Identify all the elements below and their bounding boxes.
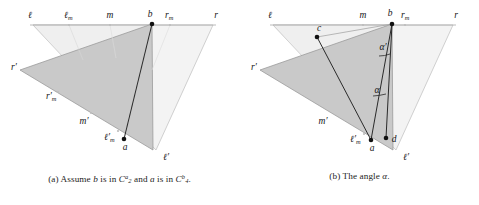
- figure-container: ℓ ℓm m b rm r r′ r′m m′ ℓ′m a ℓ′ (a) A: [0, 0, 479, 205]
- label-alpha-prime-b: α′: [379, 42, 387, 52]
- caption-b-text1: The angle: [343, 171, 380, 181]
- diagram-a: ℓ ℓm m b rm r r′ r′m m′ ℓ′m a ℓ′: [0, 0, 239, 168]
- tick-rm-a: [169, 24, 171, 26]
- label-l-a: ℓ: [28, 10, 32, 20]
- label-r-b: r: [454, 10, 458, 20]
- caption-a-math-a: a: [150, 174, 155, 184]
- label-b-b: b: [388, 8, 393, 18]
- point-c-b: [315, 35, 320, 40]
- tick-rm-prime-a: [57, 91, 59, 93]
- label-a-b: a: [370, 143, 375, 153]
- label-b-a: b: [148, 9, 153, 19]
- caption-b-prefix: (b): [329, 171, 340, 181]
- label-rm-b: rm: [401, 10, 410, 21]
- caption-a-text1: Assume: [61, 174, 91, 184]
- label-m-prime-a: m′: [80, 116, 90, 126]
- label-lm-prime-sub-b: m: [356, 138, 361, 145]
- label-rm-a: rm: [165, 10, 174, 21]
- tick-lm-a: [68, 24, 70, 26]
- caption-a-math-b: b: [93, 174, 98, 184]
- caption-a-text4: is in: [157, 174, 173, 184]
- caption-b: (b) The angle α.: [240, 170, 479, 183]
- caption-a-set1: Ca2: [119, 174, 132, 184]
- label-r-prime-a: r′: [11, 62, 18, 72]
- label-lm-prime-sub-a: m: [110, 136, 115, 143]
- diagram-b: ℓ m b rm r c α′ α r′ m′ ℓ′m a d ℓ′: [240, 0, 479, 168]
- tick-rm-b: [404, 24, 406, 26]
- tick-m-a: [109, 24, 111, 26]
- caption-a: (a) Assume b is in Ca2 and a is in Cb4.: [0, 170, 239, 187]
- point-a-a: [122, 137, 127, 142]
- caption-a-set2: Cb4: [176, 174, 189, 184]
- subfigure-b: ℓ m b rm r c α′ α r′ m′ ℓ′m a d ℓ′ (b) T…: [240, 0, 479, 205]
- caption-a-text2: is in: [100, 174, 116, 184]
- point-d-b: [384, 136, 389, 141]
- label-m-a: m: [107, 10, 114, 20]
- point-b-b: [390, 22, 395, 27]
- point-a-b: [369, 138, 374, 143]
- tick-m-prime-a: [90, 112, 92, 114]
- label-m-b: m: [360, 10, 367, 20]
- tick-m-b: [362, 24, 364, 26]
- label-lm-prime-b: ℓ′m: [350, 134, 361, 145]
- label-l-prime-a: ℓ′: [163, 152, 170, 162]
- label-l-prime-b: ℓ′: [403, 152, 410, 162]
- label-d-b: d: [392, 134, 397, 144]
- subfigure-a: ℓ ℓm m b rm r r′ r′m m′ ℓ′m a ℓ′ (a) A: [0, 0, 239, 205]
- label-lm-sub-a: m: [68, 14, 73, 21]
- tick-lm-prime-a: [117, 130, 119, 132]
- label-m-prime-b: m′: [319, 116, 329, 126]
- label-lm-a: ℓm: [64, 10, 73, 21]
- label-rm-prime-a: r′m: [46, 91, 57, 102]
- label-a-a: a: [123, 142, 128, 152]
- caption-a-prefix: (a): [48, 174, 59, 184]
- label-l-b: ℓ: [268, 10, 272, 20]
- caption-a-period: .: [188, 174, 190, 184]
- tick-lm-prime-b: [363, 133, 365, 135]
- label-r-prime-b: r′: [251, 62, 258, 72]
- label-rm-sub-a: m: [169, 14, 174, 21]
- caption-a-text3: and: [134, 174, 148, 184]
- label-r-a: r: [214, 10, 218, 20]
- point-b-a: [150, 22, 155, 27]
- caption-b-period: .: [387, 171, 389, 181]
- label-lm-prime-a: ℓ′m: [104, 132, 115, 143]
- caption-a-set1-sub: 2: [128, 177, 131, 184]
- label-rm-prime-sub-a: m: [52, 95, 57, 102]
- label-rm-sub-b: m: [405, 14, 410, 21]
